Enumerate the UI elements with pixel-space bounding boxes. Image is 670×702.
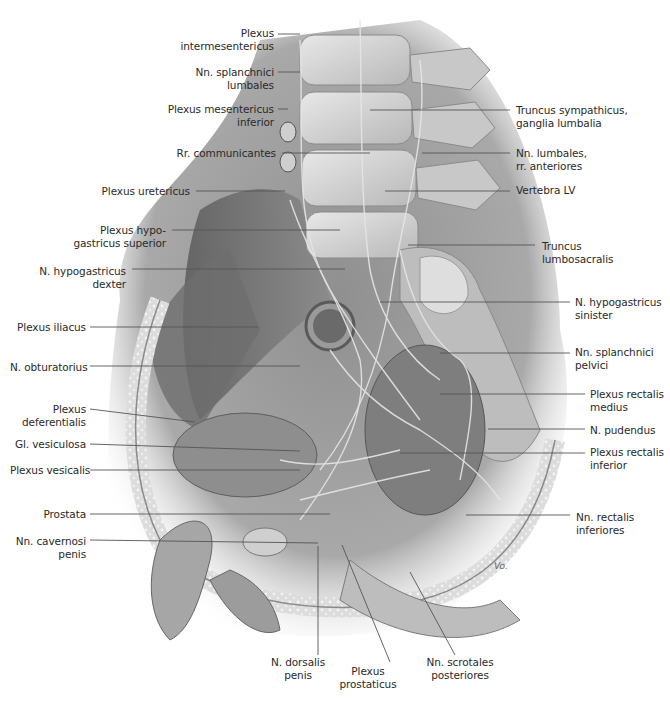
label-nn-splanchnici-lumbales: Nn. splanchnici lumbales (148, 66, 274, 92)
label-plexus-iliacus: Plexus iliacus (10, 321, 86, 334)
label-plexus-mesentericus-inferior: Plexus mesentericus inferior (128, 103, 274, 129)
artist-signature: Vo. (494, 560, 508, 573)
label-n-pudendus: N. pudendus (590, 424, 655, 437)
label-vertebra-lv: Vertebra LV (516, 184, 575, 197)
plexus-deferentialis-leader-line (90, 409, 195, 422)
label-truncus-lumbosacralis: Truncus lumbosacralis (542, 240, 613, 266)
label-plexus-intermesentericus: Plexus intermesentericus (148, 27, 274, 53)
label-n-hypogastricus-dexter: N. hypogastricus dexter (30, 265, 126, 291)
label-plexus-prostaticus: Plexus prostaticus (328, 665, 408, 691)
label-n-hypogastricus-sinister: N. hypogastricus sinister (575, 296, 662, 322)
label-gl-vesiculosa: Gl. vesiculosa (10, 438, 86, 451)
label-truncus-sympathicus: Truncus sympathicus, ganglia lumbalia (516, 104, 628, 130)
label-plexus-deferentialis: Plexus deferentialis (10, 403, 86, 429)
nn-scrotales-posteriores-leader-line (410, 572, 455, 655)
label-plexus-uretericus: Plexus uretericus (60, 185, 190, 198)
label-plexus-rectalis-inferior: Plexus rectalis inferior (590, 446, 664, 472)
label-plexus-vesicalis: Plexus vesicalis (10, 464, 86, 477)
anatomical-figure: Plexus intermesentericusNn. splanchnici … (0, 0, 670, 702)
gl-vesiculosa-leader-line (90, 444, 300, 451)
label-prostata: Prostata (10, 508, 86, 521)
label-nn-scrotales-posteriores: Nn. scrotales posteriores (420, 656, 500, 682)
label-rr-communicantes: Rr. communicantes (120, 147, 276, 160)
nn-cavernosi-penis-leader-line (90, 540, 318, 543)
label-nn-lumbales: Nn. lumbales, rr. anteriores (516, 147, 587, 173)
label-n-obturatorius: N. obturatorius (10, 361, 86, 374)
plexus-prostaticus-leader-line (342, 545, 390, 662)
label-plexus-rectalis-medius: Plexus rectalis medius (590, 388, 664, 414)
label-plexus-hypogastricus-superior: Plexus hypo- gastricus superior (60, 224, 166, 250)
label-nn-cavernosi-penis: Nn. cavernosi penis (10, 535, 86, 561)
label-nn-rectalis-inferiores: Nn. rectalis inferiores (576, 511, 634, 537)
label-nn-splanchnici-pelvici: Nn. splanchnici pelvici (575, 346, 654, 372)
label-n-dorsalis-penis: N. dorsalis penis (258, 656, 338, 682)
